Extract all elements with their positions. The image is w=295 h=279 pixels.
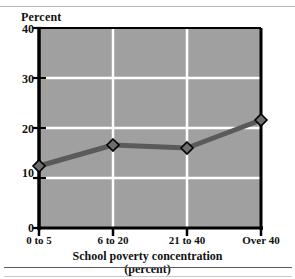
- x-axis-title-main: School poverty concentration: [73, 249, 223, 263]
- x-tick-label-6-to-20: 6 to 20: [83, 234, 143, 246]
- x-tick-label-over-40: Over 40: [231, 234, 291, 246]
- x-axis-title-sub: (percent): [0, 263, 295, 276]
- x-axis-title: School poverty concentration (percent): [0, 250, 295, 276]
- line-chart: Percent 40 30 20 10 0: [0, 0, 295, 279]
- bottom-divider-secondary: [4, 276, 292, 277]
- x-tick-label-21-to-40: 21 to 40: [157, 234, 217, 246]
- x-tick-label-0-to-5: 0 to 5: [9, 234, 69, 246]
- bottom-divider: [4, 267, 292, 268]
